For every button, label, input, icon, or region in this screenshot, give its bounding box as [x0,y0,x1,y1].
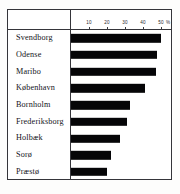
chart-row: Holbæk [8,130,171,147]
axis-tick-label: 40 [140,21,145,26]
bar-track [70,164,170,181]
axis-tick-label: 10 [86,21,91,26]
chart-row: Præstø [8,164,171,181]
bar-track [70,97,170,114]
bar [71,84,145,92]
category-label: Maribo [16,63,41,80]
bar [71,101,130,109]
plot-body: SvendborgOdenseMariboKøbenhavnBornholmFr… [8,30,171,179]
axis-tick-label: 50 [158,21,163,26]
category-label: Odense [16,47,41,64]
category-label: Svendborg [16,30,53,47]
category-label: Holbæk [16,130,43,147]
bar [71,51,157,59]
axis-header-band: 1020304050% [8,10,171,30]
bar-track [70,80,170,97]
axis-tick-label: 20 [104,21,109,26]
bar [71,134,120,142]
bar-track [70,30,170,47]
bar-track [70,114,170,131]
bar [71,34,161,42]
chart-row: Bornholm [8,97,171,114]
chart-row: Maribo [8,63,171,80]
axis-unit-label: % [166,21,170,26]
bar [71,68,156,76]
bar [71,151,111,159]
chart-row: København [8,80,171,97]
bar-track [70,130,170,147]
bar [71,118,127,126]
axis-tick-label: 30 [122,21,127,26]
chart-row: Odense [8,47,171,64]
bar-chart: 1020304050% SvendborgOdenseMariboKøbenha… [0,0,180,194]
chart-row: Sorø [8,147,171,164]
category-label: Sorø [16,147,32,164]
bar-track [70,47,170,64]
chart-row: Svendborg [8,30,171,47]
category-label: Præstø [16,164,39,181]
percentage-axis: 1020304050% [70,10,171,30]
axis-ticks-container: 1020304050% [70,10,171,30]
chart-frame: 1020304050% SvendborgOdenseMariboKøbenha… [7,9,172,180]
chart-row: Frederiksborg [8,114,171,131]
bar [71,168,107,176]
category-label: Frederiksborg [16,114,64,131]
bar-track [70,147,170,164]
category-label: København [16,80,55,97]
category-label: Bornholm [16,97,50,114]
bar-track [70,63,170,80]
